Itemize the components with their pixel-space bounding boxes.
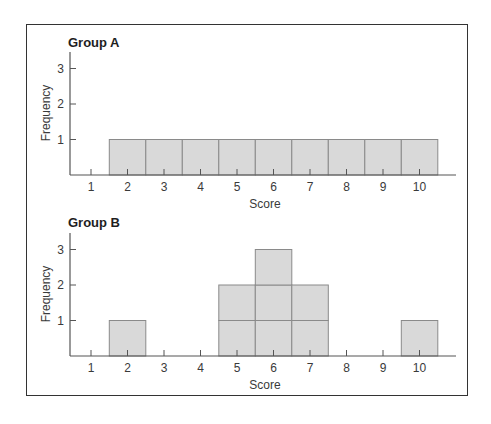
histogram-figure: Group A Frequency Score 12312345678910 G… — [0, 0, 491, 424]
x-tick-label: 7 — [307, 361, 314, 375]
x-tick-label: 1 — [88, 180, 95, 194]
group-b-bars — [109, 250, 438, 357]
group-b-histogram: Group B Frequency Score 12312345678910 — [39, 215, 456, 392]
x-tick-label: 9 — [380, 361, 387, 375]
x-tick-label: 3 — [161, 361, 168, 375]
group-a-x-axis-label: Score — [249, 197, 281, 211]
group-b-title: Group B — [68, 215, 120, 230]
x-tick-label: 5 — [234, 361, 241, 375]
x-tick-label: 2 — [124, 180, 131, 194]
y-tick-label: 2 — [57, 97, 64, 111]
x-tick-label: 6 — [270, 180, 277, 194]
group-a-y-axis-label: Frequency — [39, 85, 53, 142]
x-tick-label: 9 — [380, 180, 387, 194]
x-tick-label: 6 — [270, 361, 277, 375]
x-tick-label: 8 — [343, 180, 350, 194]
x-tick-label: 10 — [413, 361, 427, 375]
group-b-y-axis-label: Frequency — [39, 266, 53, 323]
histogram-box — [255, 285, 291, 321]
x-tick-label: 10 — [413, 180, 427, 194]
x-tick-label: 7 — [307, 180, 314, 194]
histogram-box — [255, 250, 291, 286]
histogram-box — [292, 285, 329, 321]
y-tick-label: 2 — [57, 278, 64, 292]
y-tick-label: 3 — [57, 62, 64, 76]
group-b-x-axis-label: Score — [249, 378, 281, 392]
histogram-box — [219, 285, 256, 321]
group-a-histogram: Group A Frequency Score 12312345678910 — [39, 35, 456, 211]
x-tick-label: 4 — [197, 180, 204, 194]
x-tick-label: 4 — [197, 361, 204, 375]
y-tick-label: 1 — [57, 314, 64, 328]
x-tick-label: 3 — [161, 180, 168, 194]
x-tick-label: 5 — [234, 180, 241, 194]
y-tick-label: 3 — [57, 243, 64, 257]
x-tick-label: 2 — [124, 361, 131, 375]
x-tick-label: 1 — [88, 361, 95, 375]
x-tick-label: 8 — [343, 361, 350, 375]
group-a-title: Group A — [68, 35, 120, 50]
y-tick-label: 1 — [57, 133, 64, 147]
